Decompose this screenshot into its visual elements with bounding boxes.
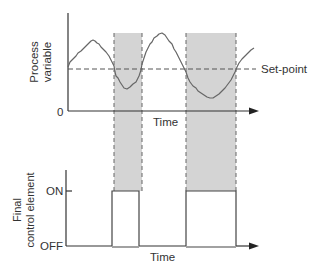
- top-ylabel-line1: Process: [28, 41, 40, 83]
- bottom-ylabel-line2: control element: [24, 172, 36, 247]
- bottom-x-axis-arrow-icon: [249, 243, 259, 250]
- shaded-band-2: [186, 33, 236, 191]
- top-y-origin-label: 0: [57, 106, 63, 118]
- shaded-band-1: [114, 33, 142, 191]
- bottom-ylabel-line1: Final: [11, 198, 23, 222]
- control-pulse-1: [112, 191, 139, 247]
- on-label: ON: [46, 185, 63, 197]
- setpoint-label: Set-point: [261, 63, 308, 75]
- bottom-xlabel: Time: [150, 251, 175, 263]
- top-x-axis-arrow-icon: [249, 108, 259, 115]
- top-ylabel-line2: variable: [41, 42, 53, 82]
- on-off-control-diagram: Process variable 0 Time Set-point Final …: [0, 0, 315, 273]
- top-xlabel: Time: [153, 116, 178, 128]
- off-label: OFF: [40, 240, 63, 252]
- control-pulse-2: [186, 191, 236, 247]
